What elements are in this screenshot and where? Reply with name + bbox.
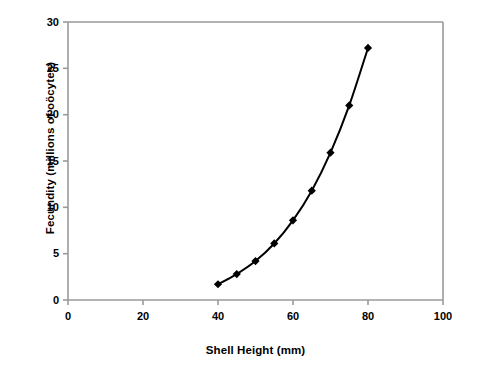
series-markers bbox=[214, 44, 372, 289]
x-axis-title: Shell Height (mm) bbox=[68, 344, 443, 356]
y-axis-title: Fecundity (millions of oöcytes) bbox=[40, 0, 60, 298]
data-point-marker bbox=[326, 149, 334, 157]
chart-figure: 0 5 10 15 20 25 30 0 20 40 60 80 100 Fec… bbox=[0, 0, 478, 374]
data-point-marker bbox=[345, 101, 353, 109]
x-tick-label-100: 100 bbox=[423, 310, 463, 323]
series-line bbox=[218, 48, 368, 284]
data-series-fecundity bbox=[214, 44, 372, 289]
x-tick-label-40: 40 bbox=[198, 310, 238, 323]
x-tick-label-80: 80 bbox=[348, 310, 388, 323]
x-tick-label-60: 60 bbox=[273, 310, 313, 323]
data-point-marker bbox=[214, 280, 222, 288]
data-point-marker bbox=[364, 44, 372, 52]
data-point-marker bbox=[308, 187, 316, 195]
x-tick-label-0: 0 bbox=[48, 310, 88, 323]
x-tick-label-20: 20 bbox=[123, 310, 163, 323]
